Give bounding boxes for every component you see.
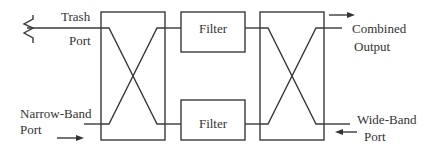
narrow-band-right-arrow-icon bbox=[57, 135, 84, 141]
combined-output-label-line1: Combined bbox=[352, 21, 407, 36]
filter-top-label: Filter bbox=[199, 21, 228, 36]
resistor-load-icon bbox=[24, 15, 33, 43]
wide-band-left-arrow-icon bbox=[335, 129, 357, 135]
trash-port-label-line1: Trash bbox=[61, 9, 91, 24]
trash-port-label-line2: Port bbox=[69, 33, 91, 48]
narrow-band-port-label-line1: Narrow-Band bbox=[20, 106, 92, 121]
combined-output-right-arrow-icon bbox=[329, 12, 355, 18]
narrow-band-port-label-line2: Port bbox=[20, 122, 42, 137]
wide-band-port-label-line1: Wide-Band bbox=[357, 112, 417, 127]
wide-band-port-label-line2: Port bbox=[364, 129, 386, 144]
filter-bottom-label: Filter bbox=[199, 116, 228, 131]
combined-output-label-line2: Output bbox=[354, 39, 391, 54]
multiplexer-diagram: Trash Port Narrow-Band Port Filter Filte… bbox=[0, 0, 436, 153]
